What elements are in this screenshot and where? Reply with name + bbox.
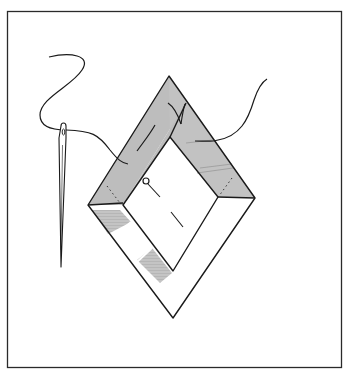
pin-icon	[143, 178, 183, 227]
thread-left	[40, 55, 128, 164]
needle-icon	[59, 123, 66, 267]
right-corner-seam	[218, 197, 255, 198]
illustration: Sewing a mitered diamond-shaped border w…	[0, 0, 349, 374]
sewing-diagram	[0, 0, 349, 374]
outer-border	[8, 12, 342, 368]
